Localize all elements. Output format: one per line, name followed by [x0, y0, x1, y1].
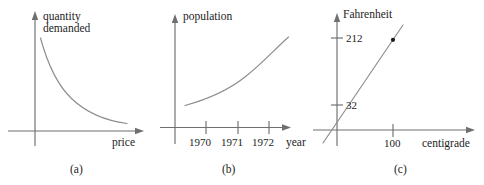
- panel-b-plot: [160, 0, 310, 185]
- panel-a-y-axis-arrowhead: [32, 11, 38, 20]
- panel-a-x-axis-label: price: [112, 136, 135, 149]
- panel-c-y-tick-label-32: 32: [346, 99, 357, 112]
- panel-a-quantity-demanded: quantity demanded price (a): [0, 0, 160, 185]
- panel-b-tick-label-1970: 1970: [189, 136, 211, 149]
- panel-c-x-tick-label-100: 100: [384, 137, 401, 150]
- panel-b-x-axis-label: year: [286, 136, 306, 149]
- panel-a-demand-curve: [41, 38, 128, 124]
- panel-c-y-axis-arrowhead: [334, 13, 340, 22]
- panel-b-tick-label-1972: 1972: [252, 136, 274, 149]
- panel-c-y-axis-label: Fahrenheit: [343, 8, 392, 21]
- panel-a-caption: (a): [70, 163, 83, 175]
- panel-b-population-curve: [185, 37, 289, 106]
- figure-three-graphs: quantity demanded price (a) population 1…: [0, 0, 484, 185]
- panel-c-point-100-212: [391, 38, 395, 42]
- panel-a-x-axis-arrowhead: [135, 128, 144, 134]
- panel-b-population: population 1970 1971 1972 year (b): [160, 0, 310, 185]
- panel-c-plot: [310, 0, 484, 185]
- panel-b-y-axis-label: population: [183, 10, 232, 23]
- panel-c-conversion-line: [323, 25, 403, 143]
- panel-c-x-axis-label: centigrade: [422, 137, 470, 150]
- panel-b-caption: (b): [222, 163, 235, 175]
- panel-a-y-axis-label-line1: quantity: [43, 10, 81, 23]
- panel-a-y-axis-label-line2: demanded: [43, 22, 90, 35]
- panel-c-fahrenheit-centigrade: Fahrenheit 212 32 100 centigrade (c): [310, 0, 484, 185]
- panel-b-tick-label-1971: 1971: [221, 136, 243, 149]
- panel-c-y-tick-label-212: 212: [346, 32, 363, 45]
- panel-b-x-axis-arrowhead: [282, 124, 291, 130]
- panel-b-y-axis-arrowhead: [172, 14, 178, 23]
- panel-c-x-axis-arrowhead: [466, 127, 475, 133]
- panel-c-caption: (c): [394, 163, 407, 175]
